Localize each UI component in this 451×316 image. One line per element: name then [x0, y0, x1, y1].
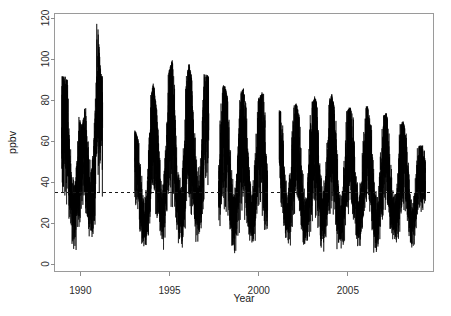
time-series-plot: 0204060801001201990199520002005 Yearppbv — [0, 0, 451, 316]
y-tick-label-120: 120 — [40, 9, 51, 26]
series-layer — [62, 24, 426, 253]
chart-figure: 0204060801001201990199520002005 Yearppbv — [0, 0, 451, 316]
y-tick-label-80: 80 — [40, 94, 51, 106]
y-tick-label-40: 40 — [40, 176, 51, 188]
axis-labels-layer: Yearppbv — [6, 130, 255, 303]
y-tick-label-0: 0 — [40, 261, 51, 267]
x-tick-label-1995: 1995 — [158, 285, 181, 296]
x-tick-label-2005: 2005 — [337, 285, 360, 296]
y-axis-title: ppbv — [6, 130, 18, 154]
y-tick-label-60: 60 — [40, 135, 51, 147]
series-ppbv-segment-1 — [135, 60, 209, 249]
series-ppbv-segment-3 — [279, 94, 425, 252]
y-tick-label-20: 20 — [40, 217, 51, 229]
x-tick-label-1990: 1990 — [69, 285, 92, 296]
series-ppbv-segment-2 — [219, 85, 268, 253]
x-axis-title: Year — [233, 292, 255, 304]
series-ppbv-segment-0 — [62, 24, 103, 250]
y-tick-label-100: 100 — [40, 50, 51, 67]
